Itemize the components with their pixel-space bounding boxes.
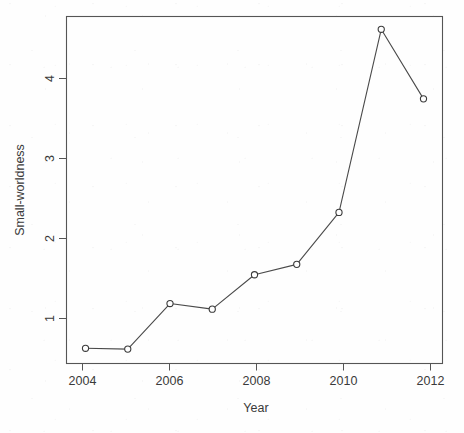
- small-worldness-line-chart: 1 2 3 4 2004 2006 2008 2010 2012 Year Sm…: [0, 0, 464, 433]
- x-axis-tick-labels: 2004 2006 2008 2010 2012: [69, 374, 445, 388]
- data-point-2006: [167, 300, 173, 306]
- y-tick-label-2: 2: [43, 235, 57, 242]
- series-markers: [82, 26, 426, 352]
- x-axis-title: Year: [243, 401, 268, 415]
- data-point-2012: [420, 96, 426, 102]
- data-point-2009: [294, 261, 300, 267]
- plot-frame: [67, 17, 443, 364]
- data-point-2007: [209, 306, 215, 312]
- x-axis-ticks: [83, 364, 431, 371]
- x-tick-label-2012: 2012: [417, 374, 445, 388]
- data-point-2010: [336, 209, 342, 215]
- data-point-2011: [378, 26, 384, 32]
- y-axis-tick-labels: 1 2 3 4: [43, 75, 57, 322]
- data-point-2004: [82, 345, 88, 351]
- y-axis-ticks: [59, 79, 66, 319]
- x-tick-label-2006: 2006: [156, 374, 184, 388]
- x-tick-label-2004: 2004: [69, 374, 97, 388]
- x-tick-label-2010: 2010: [330, 374, 358, 388]
- x-tick-label-2008: 2008: [243, 374, 271, 388]
- chart-container: 1 2 3 4 2004 2006 2008 2010 2012 Year Sm…: [0, 0, 464, 433]
- data-point-2005: [125, 346, 131, 352]
- series-line-small-worldness: [86, 29, 424, 349]
- y-tick-label-1: 1: [43, 315, 57, 322]
- y-axis-title: Small-worldness: [13, 144, 27, 236]
- y-tick-label-4: 4: [43, 75, 57, 82]
- data-point-2008: [251, 272, 257, 278]
- y-tick-label-3: 3: [43, 155, 57, 162]
